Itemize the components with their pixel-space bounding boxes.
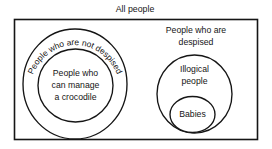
label-crocodile-line3: a crocodile [54,92,96,102]
label-babies: Babies [179,109,206,119]
euler-diagram-svg: All people People who are not despised P… [0,0,272,149]
label-people-despised-line2: despised [179,37,214,47]
label-people-despised-line1: People who are [166,25,227,35]
label-illogical-line1: Illogical [180,64,209,74]
universe-title-label: All people [116,4,155,14]
label-illogical-line2: people [181,76,207,86]
label-crocodile-line2: can manage [52,80,100,90]
euler-diagram-container: All people People who are not despised P… [0,0,272,149]
label-crocodile-line1: People who [53,68,99,78]
